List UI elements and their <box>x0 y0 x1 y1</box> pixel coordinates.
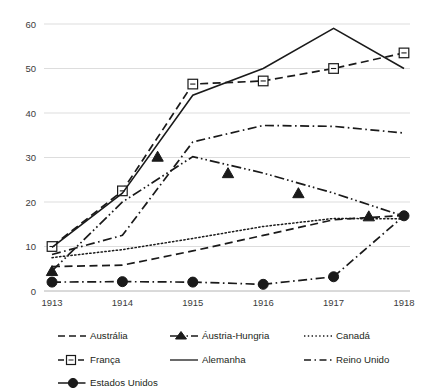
y-tick-40: 40 <box>25 108 36 119</box>
line-chart: 60 50 40 30 20 10 0 1913 1914 1915 1916 … <box>0 0 428 389</box>
legend-item-canada[interactable]: Canadá <box>304 330 371 341</box>
filled-circle-marker <box>329 272 339 282</box>
filled-circle-marker <box>399 211 409 221</box>
y-tick-10: 10 <box>25 241 36 252</box>
series-reino-unido <box>52 125 404 254</box>
legend-label-canada: Canadá <box>336 330 371 341</box>
y-tick-50: 50 <box>25 63 36 74</box>
triangle-marker <box>222 168 233 178</box>
x-axis-tick-labels: 1913 1914 1915 1916 1917 1918 <box>41 297 414 308</box>
triangle-marker <box>152 151 163 161</box>
y-tick-60: 60 <box>25 19 36 30</box>
legend-item-reino-unido[interactable]: Reino Unido <box>304 354 389 365</box>
filled-circle-marker <box>117 277 127 287</box>
x-tick-1918: 1918 <box>393 297 414 308</box>
series-alemanha <box>52 28 404 247</box>
triangle-marker <box>293 188 304 198</box>
triangle-marker-icon <box>176 332 187 340</box>
x-tick-1916: 1916 <box>253 297 274 308</box>
filled-circle-marker <box>258 279 268 289</box>
open-square-marker <box>258 76 268 86</box>
series-fran-a <box>47 48 409 251</box>
series-line <box>52 28 404 247</box>
legend-item-alemanha[interactable]: Alemanha <box>170 354 246 365</box>
series--ustria-hungria <box>46 151 404 275</box>
chart-legend: Austrália Áustria-Hungria Canadá França … <box>58 330 389 388</box>
filled-circle-marker <box>47 277 57 287</box>
series-line <box>52 218 404 257</box>
legend-label-franca: França <box>90 354 121 365</box>
x-tick-1914: 1914 <box>112 297 133 308</box>
y-tick-30: 30 <box>25 152 36 163</box>
open-square-marker <box>399 48 409 58</box>
legend-item-australia[interactable]: Austrália <box>58 330 128 341</box>
legend-label-austria-hungria: Áustria-Hungria <box>202 330 270 341</box>
y-axis-tick-labels: 60 50 40 30 20 10 0 <box>25 19 36 297</box>
series-line <box>52 125 404 254</box>
legend-item-austria-hungria[interactable]: Áustria-Hungria <box>170 330 270 341</box>
legend-label-australia: Austrália <box>90 330 128 341</box>
chart-canvas: 60 50 40 30 20 10 0 1913 1914 1915 1916 … <box>0 0 428 389</box>
legend-label-estados-unidos: Estados Unidos <box>90 377 158 388</box>
legend-item-estados-unidos[interactable]: Estados Unidos <box>58 377 158 388</box>
filled-circle-marker <box>188 277 198 287</box>
x-tick-1917: 1917 <box>323 297 344 308</box>
open-square-marker <box>329 64 339 74</box>
open-square-marker <box>188 79 198 89</box>
filled-circle-marker-icon <box>68 378 77 387</box>
y-tick-20: 20 <box>25 197 36 208</box>
legend-label-reino-unido: Reino Unido <box>336 354 389 365</box>
x-tick-1915: 1915 <box>182 297 203 308</box>
legend-item-franca[interactable]: França <box>58 354 121 365</box>
series-canad- <box>52 218 404 257</box>
series-line <box>52 216 404 285</box>
series-layer <box>46 28 409 289</box>
legend-label-alemanha: Alemanha <box>202 354 246 365</box>
x-tick-1913: 1913 <box>41 297 62 308</box>
y-tick-0: 0 <box>31 286 36 297</box>
